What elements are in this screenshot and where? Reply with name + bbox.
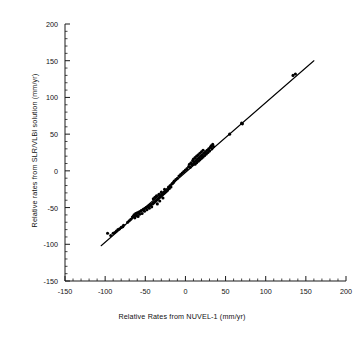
y-tick-label: -150: [28, 277, 58, 286]
x-tick-label: -50: [140, 287, 150, 296]
data-point: [294, 72, 297, 75]
data-point: [122, 224, 125, 227]
data-point: [141, 212, 144, 215]
data-point: [212, 145, 215, 148]
data-point: [241, 122, 244, 125]
x-tick-label: 0: [183, 287, 187, 296]
x-tick-label: -150: [58, 287, 72, 296]
x-axis-title: Relative Rates from NUVEL-1 (mm/yr): [0, 312, 364, 321]
y-tick-label: 200: [28, 20, 58, 29]
data-point: [161, 196, 164, 199]
data-point: [150, 205, 153, 208]
data-point: [208, 149, 211, 152]
data-point: [109, 234, 112, 237]
x-tick-label: 50: [222, 287, 230, 296]
data-point: [106, 232, 109, 235]
data-point: [169, 185, 172, 188]
data-point: [158, 199, 161, 202]
x-tick-label: -100: [98, 287, 112, 296]
y-tick-label: 100: [28, 93, 58, 102]
y-tick-label: 0: [28, 166, 58, 175]
scatter-plot-figure: Relative Rates from NUVEL-1 (mm/yr) Rela…: [0, 0, 364, 337]
x-tick-label: 200: [340, 287, 352, 296]
data-points-group: [106, 72, 297, 237]
y-tick-label: -50: [28, 203, 58, 212]
x-tick-label: 100: [260, 287, 272, 296]
y-tick-label: 50: [28, 130, 58, 139]
x-tick-label: 150: [300, 287, 312, 296]
y-tick-label: 150: [28, 56, 58, 65]
data-point: [228, 133, 231, 136]
data-point: [156, 202, 159, 205]
y-tick-label: -100: [28, 240, 58, 249]
